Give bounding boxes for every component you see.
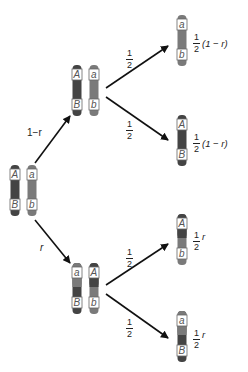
allele-boxes — [10, 19, 187, 356]
allele-label: a — [74, 268, 80, 278]
segregation-fraction: 1 2 — [126, 248, 133, 269]
arrow-gamete-4 — [106, 294, 168, 338]
no-crossover-probability-label: 1−r — [27, 128, 42, 138]
allele-label: a — [91, 70, 97, 80]
allele-label: A — [91, 268, 98, 278]
arrow-no-crossover — [35, 116, 70, 163]
segregation-fraction: 1 2 — [126, 120, 133, 141]
allele-label: B — [74, 100, 81, 110]
allele-label: A — [12, 170, 19, 180]
segregation-fraction: 1 2 — [126, 49, 133, 70]
allele-label: A — [179, 219, 186, 229]
gamete-probability: 12 (1 − r) — [193, 33, 228, 54]
recombination-diagram: A B a b A B a b a B A b a b A B A b a B … — [0, 0, 248, 372]
allele-label: b — [179, 249, 185, 259]
arrow-gamete-2 — [106, 97, 168, 140]
allele-label: b — [179, 50, 185, 60]
gamete-probability: 12 r — [193, 231, 205, 252]
allele-label: B — [74, 298, 81, 308]
allele-label: b — [91, 100, 97, 110]
arrow-gamete-3 — [106, 244, 168, 285]
allele-label: B — [179, 150, 186, 160]
allele-label: A — [74, 70, 81, 80]
diagram-graphics — [0, 0, 248, 372]
allele-label: b — [29, 200, 35, 210]
arrow-gamete-1 — [106, 46, 168, 88]
segregation-fraction: 1 2 — [126, 318, 133, 339]
gamete-probability: 12 (1 − r) — [193, 133, 228, 154]
allele-label: b — [91, 298, 97, 308]
allele-label: B — [179, 346, 186, 356]
gamete-probability: 12 r — [193, 329, 205, 350]
crossover-probability-label: r — [40, 243, 43, 253]
allele-label: A — [179, 120, 186, 130]
allele-label: a — [29, 170, 35, 180]
allele-label: B — [12, 200, 19, 210]
allele-label: a — [179, 316, 185, 326]
allele-label: a — [179, 20, 185, 30]
